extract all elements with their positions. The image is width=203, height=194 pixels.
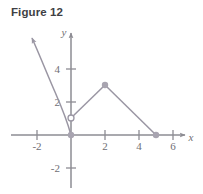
x-tick-label-2: 2	[102, 140, 108, 152]
x-axis-label: x	[188, 131, 194, 143]
origin-closed-point	[68, 132, 74, 138]
end-closed-point	[153, 132, 159, 138]
x-tick-label-4: 4	[136, 140, 142, 152]
x-tick-label-6: 6	[170, 140, 176, 152]
y-axis-label: y	[61, 26, 67, 38]
rising-segment	[71, 85, 105, 118]
y-tick-label-4: 4	[55, 63, 61, 75]
y-tick-label-neg2: -2	[51, 162, 60, 174]
x-tick-label-neg2: -2	[32, 140, 41, 152]
figure-container: Figure 12 -2 2 4 6 4 2 -2	[0, 0, 203, 194]
open-point-at-0-1	[68, 115, 74, 121]
falling-segment	[105, 85, 156, 135]
peak-closed-point	[102, 82, 108, 88]
coordinate-plot: -2 2 4 6 4 2 -2 x y	[0, 0, 203, 194]
decaying-curve-branch	[32, 38, 71, 135]
